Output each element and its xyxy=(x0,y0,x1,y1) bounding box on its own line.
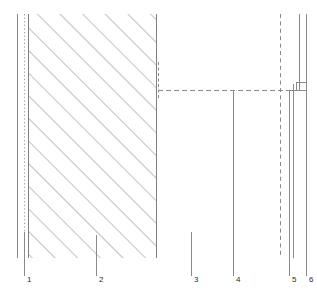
hatched-block-fill xyxy=(28,14,156,258)
callout-label-5: 5 xyxy=(292,276,296,284)
technical-drawing-figure: 1 2 3 4 5 6 xyxy=(0,0,317,303)
callout-label-1: 1 xyxy=(27,276,31,284)
callout-label-4: 4 xyxy=(236,276,240,284)
callout-label-6: 6 xyxy=(309,276,313,284)
callout-label-3: 3 xyxy=(194,276,198,284)
drawing-canvas xyxy=(0,0,317,303)
right-layer-lines xyxy=(290,14,307,258)
callout-label-2: 2 xyxy=(99,276,103,284)
